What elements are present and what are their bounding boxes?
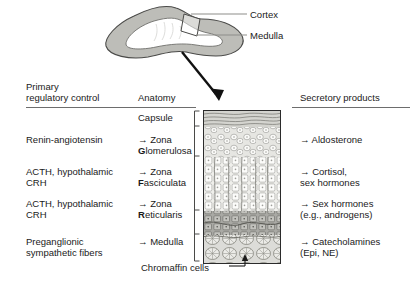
histology-column	[203, 110, 281, 264]
anatomy-zona-reticularis: → Zona Reticularis	[138, 198, 182, 220]
anatomy-capsule: Capsule	[138, 112, 173, 123]
label-cortex: Cortex	[250, 9, 278, 20]
anatomy-zona-reticularis-rest: eticularis	[145, 209, 183, 220]
product-catecholamines: → Catecholamines (Epi, NE)	[300, 236, 380, 258]
band-zona-fasciculata	[204, 157, 280, 211]
product-aldosterone: → Aldosterone	[300, 134, 362, 145]
adrenal-gland-illustration	[100, 2, 250, 64]
control-renin-angiotensin: Renin-angiotensin	[26, 134, 103, 145]
band-zona-glomerulosa	[204, 127, 280, 157]
anatomy-zona-fasciculata-prefix: → Zona	[138, 166, 172, 177]
anatomy-zona-glomerulosa-rest: lomerulosa	[145, 145, 191, 156]
anatomy-zona-fasciculata: → Zona Fasciculata	[138, 166, 186, 188]
band-capsule	[204, 111, 280, 127]
header-rule-left	[26, 107, 196, 108]
product-sex-hormones: → Sex hormones (e.g., androgens)	[300, 198, 373, 220]
zone-bracket-rail	[193, 110, 200, 262]
product-cortisol-sex-hormones: → Cortisol, sex hormones	[300, 166, 360, 188]
label-chromaffin-cells: Chromaffin cells	[141, 262, 209, 273]
anatomy-zona-glomerulosa-prefix: → Zona	[138, 134, 172, 145]
header-secretory-products: Secretory products	[300, 93, 380, 104]
control-acth-crh-reticularis: ACTH, hypothalamic CRH	[26, 198, 113, 220]
label-medulla: Medulla	[250, 30, 283, 41]
mnemonic-letter-r: R	[138, 209, 145, 220]
anatomy-zona-fasciculata-rest: asciculata	[144, 177, 186, 188]
band-zona-reticularis	[204, 211, 280, 235]
anatomy-zona-reticularis-prefix: → Zona	[138, 198, 172, 209]
header-rule-right	[292, 107, 410, 108]
anatomy-zona-glomerulosa: → Zona Glomerulosa	[138, 134, 192, 156]
band-medulla	[204, 235, 280, 263]
anatomy-medulla: → Medulla	[138, 236, 183, 247]
header-primary-regulatory-control: Primary regulatory control	[26, 82, 99, 104]
figure-root: Cortex Medulla	[0, 0, 416, 282]
control-acth-crh-fasciculata: ACTH, hypothalamic CRH	[26, 166, 113, 188]
header-anatomy: Anatomy	[138, 93, 176, 104]
control-preganglionic-sympathetic-fibers: Preganglionic sympathetic fibers	[26, 236, 103, 258]
